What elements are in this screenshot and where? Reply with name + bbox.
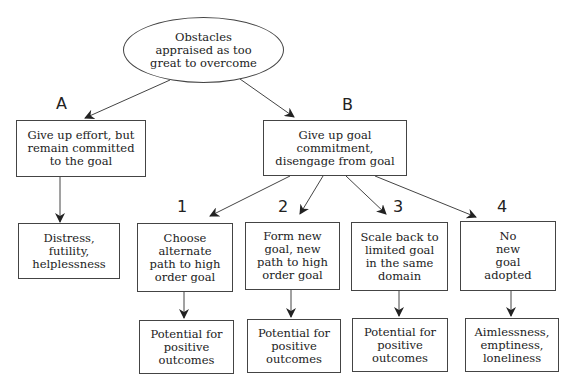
arrow-root-to-b xyxy=(240,79,294,117)
node-option-scale-back: Scale back to limited goal in the same d… xyxy=(351,222,448,291)
node-outcome-positive-1: Potential for positive outcomes xyxy=(139,320,234,374)
arrow-b-to-option-4 xyxy=(375,176,476,217)
arrow-b-to-option-3 xyxy=(346,176,386,214)
root-node-obstacles: Obstacles appraised as too great to over… xyxy=(123,17,284,83)
option-number-3: 3 xyxy=(393,199,403,215)
node-give-up-goal-commitment: Give up goal commitment, disengage from … xyxy=(263,120,407,176)
node-outcome-positive-3: Potential for positive outcomes xyxy=(352,318,448,372)
goal-disengagement-diagram: Obstacles appraised as too great to over… xyxy=(0,0,573,388)
node-option-new-goal: Form new goal, new path to high order go… xyxy=(245,222,340,290)
node-outcome-positive-2: Potential for positive outcomes xyxy=(247,319,341,373)
option-number-4: 4 xyxy=(497,199,507,215)
branch-label-a: A xyxy=(56,96,67,112)
arrow-root-to-a xyxy=(85,80,170,118)
node-option-no-new-goal: No new goal adopted xyxy=(460,221,556,291)
node-outcome-aimlessness: Aimlessness, emptiness, loneliness xyxy=(465,318,559,372)
node-outcome-distress: Distress, futility, helplessness xyxy=(18,223,120,279)
node-option-alternate-path: Choose alternate path to high order goal xyxy=(137,223,233,292)
node-give-up-effort: Give up effort, but remain committed to … xyxy=(16,120,146,177)
arrow-b-to-option-2 xyxy=(300,176,323,214)
option-number-1: 1 xyxy=(177,199,187,215)
branch-label-b: B xyxy=(342,97,353,113)
option-number-2: 2 xyxy=(278,199,288,215)
